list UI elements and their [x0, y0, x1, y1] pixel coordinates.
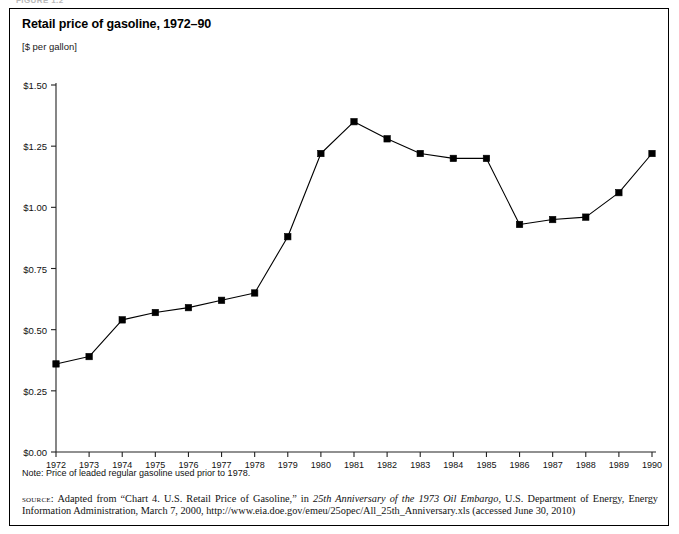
- chart-svg: [10, 9, 670, 527]
- data-point-marker: [616, 189, 622, 195]
- data-point-marker: [417, 150, 423, 156]
- data-point-marker: [86, 353, 92, 359]
- y-axis-tick-label: $1.50: [10, 80, 47, 91]
- source-text-part1: Adapted from “Chart 4. U.S. Retail Price…: [54, 493, 313, 504]
- x-axis-tick-label: 1983: [410, 460, 430, 470]
- data-point-marker: [185, 304, 191, 310]
- chart-source: source: Adapted from “Chart 4. U.S. Reta…: [22, 493, 658, 518]
- data-point-marker: [649, 150, 655, 156]
- y-axis-tick-label: $0.00: [10, 447, 47, 458]
- x-axis-tick-label: 1988: [576, 460, 596, 470]
- figure-number-caption: FIGURE 1.2: [16, 0, 64, 6]
- y-axis-unit-label: [$ per gallon]: [22, 41, 77, 52]
- x-axis-tick-label: 1980: [311, 460, 331, 470]
- data-point-marker: [53, 361, 59, 367]
- x-axis-tick-label: 1987: [543, 460, 563, 470]
- chart-note: Note: Price of leaded regular gasoline u…: [22, 468, 250, 478]
- data-point-marker: [549, 216, 555, 222]
- x-axis-tick-label: 1986: [510, 460, 530, 470]
- x-axis-tick-label: 1984: [443, 460, 463, 470]
- data-point-marker: [583, 214, 589, 220]
- figure-container: Retail price of gasoline, 1972–90 [$ per…: [9, 8, 669, 526]
- page-title: Retail price of gasoline, 1972–90: [22, 17, 211, 31]
- x-axis-tick-label: 1990: [642, 460, 662, 470]
- data-point-marker: [384, 136, 390, 142]
- data-point-marker: [351, 119, 357, 125]
- data-series-line: [56, 122, 652, 364]
- x-axis-tick-label: 1982: [377, 460, 397, 470]
- x-axis-tick-label: 1979: [278, 460, 298, 470]
- y-axis-tick-label: $0.50: [10, 324, 47, 335]
- data-point-marker: [251, 290, 257, 296]
- data-point-marker: [516, 221, 522, 227]
- data-point-marker: [285, 233, 291, 239]
- data-point-marker: [119, 317, 125, 323]
- x-axis-tick-label: 1985: [476, 460, 496, 470]
- source-label: source:: [22, 493, 54, 504]
- y-axis-tick-label: $1.00: [10, 202, 47, 213]
- y-axis-tick-label: $0.25: [10, 385, 47, 396]
- line-chart: $0.00$0.25$0.50$0.75$1.00$1.25$1.5019721…: [10, 9, 670, 527]
- x-axis-tick-label: 1981: [344, 460, 364, 470]
- data-point-marker: [483, 155, 489, 161]
- y-axis-tick-label: $0.75: [10, 263, 47, 274]
- source-title-italic: 25th Anniversary of the 1973 Oil Embargo: [313, 493, 498, 504]
- data-point-marker: [218, 297, 224, 303]
- data-point-marker: [450, 155, 456, 161]
- x-axis-tick-label: 1989: [609, 460, 629, 470]
- data-point-marker: [152, 309, 158, 315]
- y-axis-tick-label: $1.25: [10, 141, 47, 152]
- data-point-marker: [318, 150, 324, 156]
